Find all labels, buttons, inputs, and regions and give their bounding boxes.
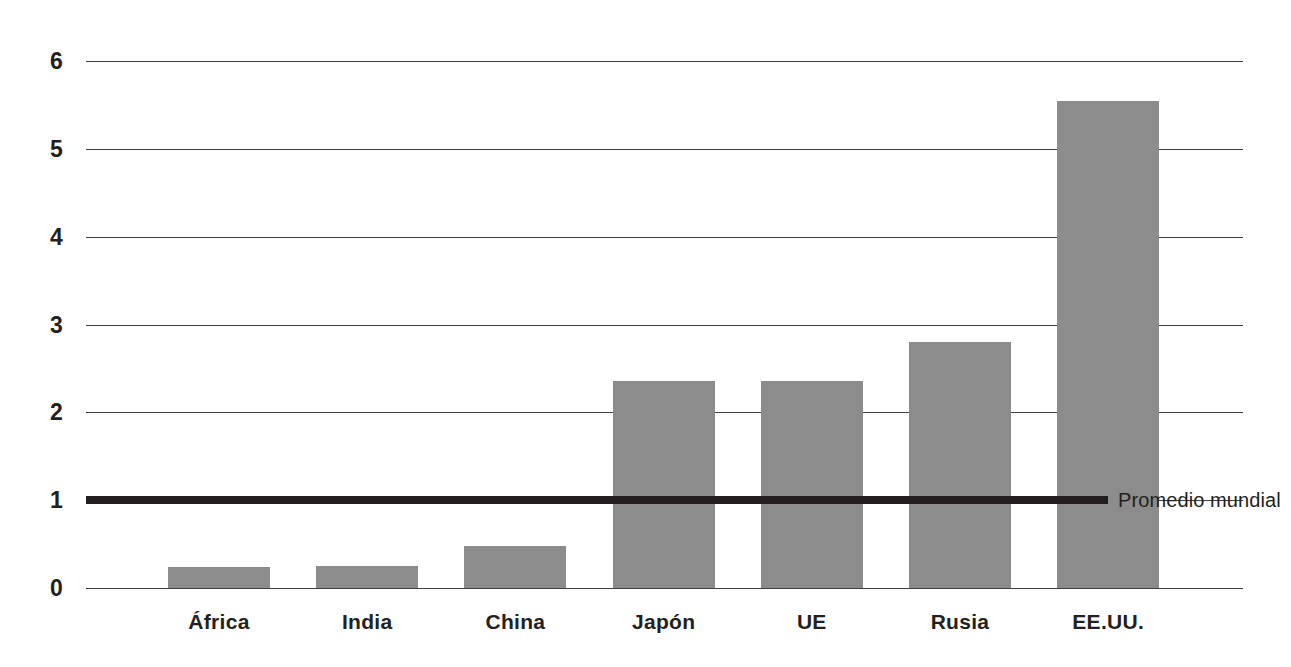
plot-area: Promedio mundial	[86, 61, 1243, 588]
bar-chart: 0123456 Promedio mundial ÁfricaIndiaChin…	[0, 0, 1291, 667]
y-axis-tick-label: 1	[23, 489, 63, 512]
bar	[168, 567, 270, 588]
world-average-line	[86, 496, 1108, 504]
bar	[761, 381, 863, 588]
y-axis-tick-label: 4	[23, 225, 63, 248]
bar	[1057, 101, 1159, 588]
x-axis-category-label: EE.UU.	[1018, 611, 1198, 632]
bar	[613, 381, 715, 588]
y-axis-tick-label: 0	[23, 577, 63, 600]
gridline-6	[86, 61, 1243, 62]
axis-baseline	[86, 588, 1243, 589]
bar	[464, 546, 566, 588]
bar	[316, 566, 418, 588]
y-axis-tick-label: 2	[23, 401, 63, 424]
y-axis-tick-label: 5	[23, 137, 63, 160]
bar	[909, 342, 1011, 588]
world-average-label: Promedio mundial	[1118, 490, 1281, 510]
y-axis-tick-label: 6	[23, 50, 63, 73]
y-axis-tick-label: 3	[23, 313, 63, 336]
